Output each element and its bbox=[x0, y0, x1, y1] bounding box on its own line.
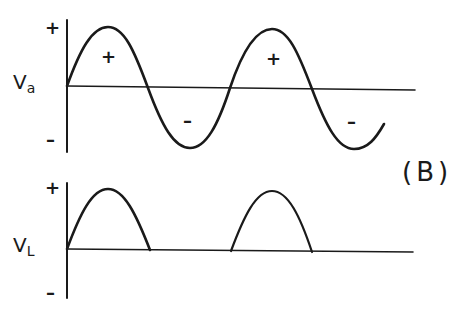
vl-time-axis bbox=[67, 249, 413, 252]
vl-axis-plus-label: + bbox=[45, 179, 60, 197]
waveform-diagram bbox=[0, 0, 470, 309]
vl-axis-minus-label: – bbox=[46, 284, 55, 302]
va-axis-label-sub: a bbox=[27, 80, 36, 96]
va-lobe-2-label: – bbox=[183, 112, 192, 130]
va-lobe-1-label: + bbox=[101, 48, 116, 66]
figure-label: (B) bbox=[402, 159, 452, 185]
va-lobe-3-label: + bbox=[266, 50, 281, 68]
vl-axis-label: VL bbox=[13, 235, 35, 258]
va-axis-minus-label: – bbox=[46, 131, 55, 149]
vl-rectified-pulse-1 bbox=[67, 189, 150, 250]
va-lobe-4-label: – bbox=[347, 113, 356, 131]
va-axis-label-main: V bbox=[13, 70, 27, 94]
va-time-axis bbox=[67, 86, 415, 90]
vl-rectified-pulse-2 bbox=[231, 191, 312, 252]
va-axis-plus-label: + bbox=[45, 19, 60, 37]
vl-axis-label-main: V bbox=[13, 233, 27, 257]
va-axis-label: Va bbox=[13, 72, 35, 95]
vl-axis-label-sub: L bbox=[27, 243, 35, 259]
